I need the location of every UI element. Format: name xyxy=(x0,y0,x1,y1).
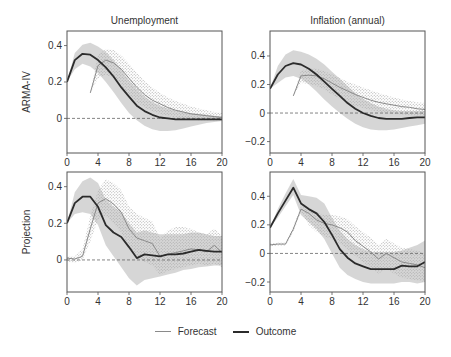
x-tick-label: 20 xyxy=(216,296,228,307)
plot-area xyxy=(270,50,425,130)
x-tick-label: 4 xyxy=(298,296,304,307)
x-tick-label: 16 xyxy=(185,296,197,307)
forecast-line-swatch xyxy=(155,331,171,332)
y-tick-label: 0 xyxy=(259,108,265,119)
y-tick-label: 0.2 xyxy=(251,79,265,90)
y-tick-label: 0.4 xyxy=(48,40,62,51)
y-tick-label: 0.2 xyxy=(251,219,265,230)
column-title-inflation: Inflation (annual) xyxy=(310,15,385,26)
x-tick-label: 0 xyxy=(267,157,273,168)
x-tick-label: 20 xyxy=(419,296,431,307)
x-tick-label: 0 xyxy=(267,296,273,307)
outcome-line-swatch xyxy=(233,331,249,333)
x-tick-label: 8 xyxy=(126,157,132,168)
legend: Forecast Outcome xyxy=(0,326,451,337)
panel-arma-unemployment: 04812162000.20.4 xyxy=(48,31,228,168)
x-tick-label: 4 xyxy=(298,157,304,168)
x-tick-label: 20 xyxy=(216,157,228,168)
plot-area xyxy=(270,179,425,283)
y-tick-label: 0.2 xyxy=(48,218,62,229)
x-tick-label: 4 xyxy=(95,296,101,307)
plot-area xyxy=(67,178,222,286)
panel-arma-inflation: 048121620−0.200.20.4 xyxy=(245,31,431,168)
legend-item-forecast: Forecast xyxy=(155,326,217,337)
x-tick-label: 16 xyxy=(185,157,197,168)
x-tick-label: 12 xyxy=(154,157,166,168)
plot-area xyxy=(67,43,222,131)
y-tick-label: 0 xyxy=(56,113,62,124)
x-tick-label: 0 xyxy=(64,157,70,168)
x-tick-label: 16 xyxy=(388,157,400,168)
y-tick-label: 0 xyxy=(259,248,265,259)
x-tick-label: 16 xyxy=(388,296,400,307)
y-tick-label: 0.4 xyxy=(251,191,265,202)
x-tick-label: 8 xyxy=(329,296,335,307)
x-tick-label: 8 xyxy=(329,157,335,168)
y-tick-label: −0.2 xyxy=(245,136,265,147)
legend-outcome-label: Outcome xyxy=(256,326,297,337)
x-tick-label: 12 xyxy=(154,296,166,307)
x-tick-label: 4 xyxy=(95,157,101,168)
figure: Unemployment Inflation (annual) ARMA-IV … xyxy=(0,0,451,357)
x-tick-label: 12 xyxy=(357,157,369,168)
y-tick-label: 0.4 xyxy=(48,181,62,192)
x-tick-label: 12 xyxy=(357,296,369,307)
y-tick-label: 0.2 xyxy=(48,76,62,87)
x-tick-label: 8 xyxy=(126,296,132,307)
legend-forecast-label: Forecast xyxy=(178,326,217,337)
x-tick-label: 0 xyxy=(64,296,70,307)
legend-item-outcome: Outcome xyxy=(233,326,297,337)
row-label-projection: Projection xyxy=(21,210,32,254)
panel-projection-unemployment: 04812162000.20.4 xyxy=(48,172,228,307)
y-tick-label: −0.2 xyxy=(245,277,265,288)
y-tick-label: 0.4 xyxy=(251,50,265,61)
x-tick-label: 20 xyxy=(419,157,431,168)
panel-projection-inflation: 048121620−0.200.20.4 xyxy=(245,172,431,307)
column-title-unemployment: Unemployment xyxy=(111,15,178,26)
y-tick-label: 0 xyxy=(56,254,62,265)
row-label-arma-iv: ARMA-IV xyxy=(21,71,32,113)
